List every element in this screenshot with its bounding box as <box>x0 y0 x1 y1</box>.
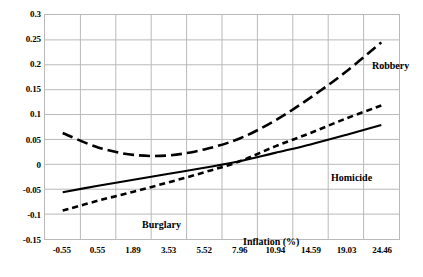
inflation-crime-chart: 0.30.250.20.150.10.050-0.05-0.1-0.15 Rob… <box>0 0 423 277</box>
y-axis-tick-labels: 0.30.250.20.150.10.050-0.05-0.1-0.15 <box>0 14 41 240</box>
x-axis-tick: 14.59 <box>293 243 329 261</box>
y-axis-tick: 0 <box>1 160 41 170</box>
x-axis-tick: 24.46 <box>364 243 400 261</box>
x-axis-tick: 7.96 <box>222 243 258 261</box>
x-axis-tick: -0.55 <box>44 243 80 261</box>
x-axis-tick-labels: -0.550.551.893.535.527.9610.9414.5919.03… <box>44 243 400 261</box>
y-axis-tick: 0.05 <box>1 135 41 145</box>
x-axis-tick: 1.89 <box>115 243 151 261</box>
x-axis-tick: 0.55 <box>80 243 116 261</box>
y-axis-tick: 0.1 <box>1 109 41 119</box>
series-lines <box>45 15 399 239</box>
x-axis-tick: 3.53 <box>151 243 187 261</box>
y-axis-tick: 0.15 <box>1 84 41 94</box>
y-axis-tick: 0.3 <box>1 9 41 19</box>
y-axis-tick: -0.1 <box>1 210 41 220</box>
y-axis-tick: 0.2 <box>1 59 41 69</box>
series-line-burglary <box>63 106 382 211</box>
x-axis-tick: 5.52 <box>186 243 222 261</box>
y-axis-tick: 0.25 <box>1 34 41 44</box>
y-axis-tick: -0.05 <box>1 185 41 195</box>
x-axis-tick: 10.94 <box>258 243 294 261</box>
series-label-burglary: Burglary <box>142 219 181 230</box>
plot-area: Robbery Homicide Burglary Inflation (%) <box>44 14 400 240</box>
x-axis-tick: 19.03 <box>329 243 365 261</box>
series-label-homicide: Homicide <box>331 172 372 183</box>
y-axis-tick: -0.15 <box>1 235 41 245</box>
series-label-robbery: Robbery <box>372 60 409 71</box>
